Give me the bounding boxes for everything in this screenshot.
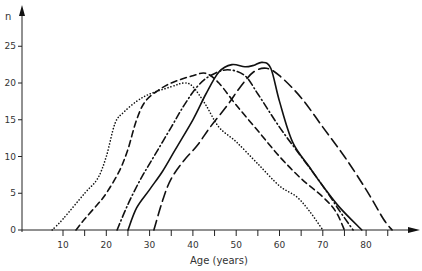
- age-distribution-chart: n Age (years) 0510152025 102030405060708…: [0, 0, 422, 271]
- y-tick-label: 25: [5, 41, 16, 51]
- y-tick-label: 15: [5, 115, 16, 125]
- y-tick-label: 20: [5, 78, 17, 88]
- x-tick-label: 60: [274, 240, 286, 250]
- curves: [52, 62, 392, 230]
- y-tick-label: 10: [5, 152, 17, 162]
- y-axis-label: n: [5, 11, 11, 22]
- y-tick-label: 0: [10, 225, 16, 235]
- x-tick-label: 10: [57, 240, 69, 250]
- y-ticks: 0510152025: [5, 41, 22, 235]
- y-tick-label: 5: [10, 188, 16, 198]
- x-tick-label: 20: [101, 240, 113, 250]
- x-ticks: 1020304050607080: [57, 230, 387, 250]
- x-axis-label: Age (years): [190, 255, 248, 266]
- x-tick-label: 80: [360, 240, 372, 250]
- x-tick-label: 50: [230, 240, 242, 250]
- x-tick-label: 40: [187, 240, 199, 250]
- x-tick-label: 70: [317, 240, 329, 250]
- x-axis-arrow-icon: [408, 227, 420, 233]
- curve-long-dash: [154, 68, 392, 230]
- curve-short-dash: [76, 73, 344, 230]
- x-tick-label: 30: [144, 240, 156, 250]
- y-axis-arrow-icon: [19, 5, 25, 16]
